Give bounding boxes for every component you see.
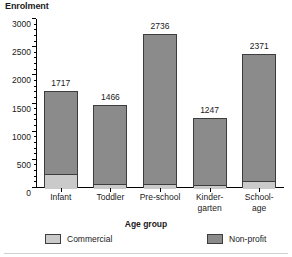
chart-legend: Commercial Non-profit xyxy=(0,234,292,250)
legend-label-nonprofit: Non-profit xyxy=(229,234,266,244)
y-axis-title: Enrolment xyxy=(5,1,49,11)
legend-label-commercial: Commercial xyxy=(67,234,112,244)
bar-group[interactable]: 2371 xyxy=(242,19,276,188)
bar-stack[interactable] xyxy=(44,91,78,188)
bar-stack[interactable] xyxy=(242,54,276,188)
bar-segment-nonprofit[interactable] xyxy=(144,35,176,184)
bar-value-label: 1247 xyxy=(200,105,219,115)
bar-segment-nonprofit[interactable] xyxy=(45,92,77,173)
bar-group[interactable]: 1466 xyxy=(93,19,127,188)
x-category-label: Kinder-garten xyxy=(185,192,235,213)
bar-group[interactable]: 1717 xyxy=(44,19,78,188)
bar-value-label: 1717 xyxy=(51,78,70,88)
x-category-label-line: age xyxy=(252,203,266,213)
bar-value-label: 2736 xyxy=(151,21,170,31)
x-category-label: School-age xyxy=(234,192,284,213)
bar-group[interactable]: 2736 xyxy=(143,19,177,188)
x-category-label: Pre-school xyxy=(135,192,185,203)
x-category-label-line: garten xyxy=(198,203,222,213)
bar-group[interactable]: 1247 xyxy=(193,19,227,188)
enrolment-bar-chart: Enrolment 050010001500200025003000 17171… xyxy=(0,0,292,257)
x-category-label-line: Infant xyxy=(50,192,71,202)
plot-area: 050010001500200025003000 171714662736124… xyxy=(36,19,284,188)
legend-swatch-commercial-icon xyxy=(45,234,61,244)
legend-swatch-nonprofit-icon xyxy=(207,234,223,244)
bar-segment-nonprofit[interactable] xyxy=(243,55,275,180)
bar-series-container: 17171466273612472371 xyxy=(36,19,284,188)
bar-segment-commercial[interactable] xyxy=(45,174,77,189)
legend-item-nonprofit: Non-profit xyxy=(207,234,266,244)
bar-segment-nonprofit[interactable] xyxy=(194,119,226,186)
bar-stack[interactable] xyxy=(143,34,177,188)
legend-item-commercial: Commercial xyxy=(45,234,112,244)
bar-value-label: 2371 xyxy=(250,41,269,51)
x-category-label-line: School- xyxy=(245,192,274,202)
x-category-label: Infant xyxy=(36,192,86,203)
x-category-label-line: Toddler xyxy=(96,192,124,202)
bar-segment-nonprofit[interactable] xyxy=(94,106,126,184)
bar-stack[interactable] xyxy=(93,105,127,188)
footer-divider xyxy=(4,253,288,254)
x-category-label-line: Kinder- xyxy=(196,192,223,202)
x-axis-category-labels: InfantToddlerPre-schoolKinder-gartenScho… xyxy=(36,192,284,220)
x-category-label-line: Pre-school xyxy=(140,192,181,202)
bar-stack[interactable] xyxy=(193,118,227,188)
x-axis-title: Age group xyxy=(0,219,292,229)
x-category-label: Toddler xyxy=(86,192,136,203)
bar-value-label: 1466 xyxy=(101,92,120,102)
